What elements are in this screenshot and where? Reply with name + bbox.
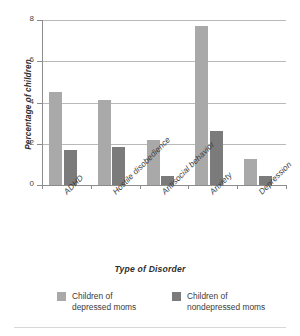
bar xyxy=(98,100,111,185)
x-tick-mark xyxy=(140,185,141,189)
legend-swatch-icon xyxy=(57,292,66,301)
y-axis-line xyxy=(42,20,43,186)
bar xyxy=(49,92,62,185)
legend-swatch-icon xyxy=(172,292,181,301)
plot-area xyxy=(42,20,286,185)
gridline xyxy=(42,61,286,62)
footer-divider xyxy=(14,327,286,328)
y-tick-label: 4 xyxy=(4,98,34,106)
x-axis-title: Type of Disorder xyxy=(0,264,300,274)
chart-legend: Children of depressed moms Children of n… xyxy=(0,291,300,325)
x-tick-mark xyxy=(42,185,43,189)
bar-chart-figure: Percentage of children 02468 ADHDHostile… xyxy=(0,0,300,336)
legend-item-nondepressed: Children of nondepressed moms xyxy=(172,291,265,312)
bar xyxy=(244,159,257,185)
x-tick-mark xyxy=(188,185,189,189)
gridline xyxy=(42,103,286,104)
gridline xyxy=(42,20,286,21)
legend-item-depressed: Children of depressed moms xyxy=(57,291,136,312)
legend-label-line1: Children of xyxy=(72,291,113,301)
y-tick-label: 6 xyxy=(4,56,34,64)
x-tick-mark xyxy=(237,185,238,189)
legend-label: Children of nondepressed moms xyxy=(187,291,265,312)
y-tick-label: 2 xyxy=(4,139,34,147)
x-tick-mark xyxy=(286,185,287,189)
legend-label-line1: Children of xyxy=(187,291,228,301)
y-tick-label: 8 xyxy=(4,15,34,23)
y-tick-label: 0 xyxy=(4,180,34,188)
legend-label-line2: depressed moms xyxy=(72,302,136,312)
legend-label-line2: nondepressed moms xyxy=(187,302,265,312)
legend-label: Children of depressed moms xyxy=(72,291,136,312)
x-tick-mark xyxy=(91,185,92,189)
